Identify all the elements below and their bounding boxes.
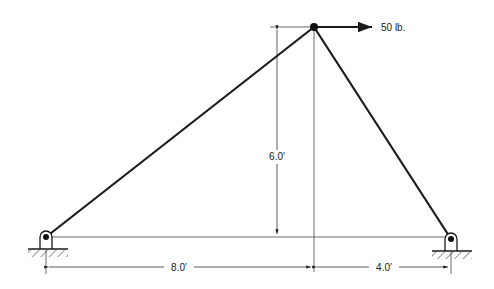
right-member: [314, 27, 451, 239]
left-span-label: 8.0′: [171, 262, 187, 273]
load-label: 50 lb.: [381, 22, 405, 33]
height-dimension-label: 6.0′: [269, 151, 285, 162]
right-span-label: 4.0′: [376, 262, 392, 273]
truss-diagram: 6.0′ 8.0′ 4.0′ 50 lb.: [0, 0, 494, 289]
left-pin-support-icon: [28, 231, 68, 257]
apex-pin-icon: [310, 23, 318, 31]
left-member: [46, 27, 314, 237]
